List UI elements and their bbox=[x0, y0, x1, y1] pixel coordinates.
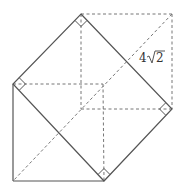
dashed-diagonal bbox=[13, 14, 172, 181]
geometry-diagram: 4 2 bbox=[0, 0, 185, 192]
dashed-lines bbox=[13, 14, 172, 181]
label-number: 4 bbox=[139, 51, 147, 65]
dashed-middle-vertical bbox=[103, 84, 104, 181]
side-length-label: 4 2 bbox=[139, 51, 165, 65]
label-radicand: 2 bbox=[156, 51, 164, 65]
